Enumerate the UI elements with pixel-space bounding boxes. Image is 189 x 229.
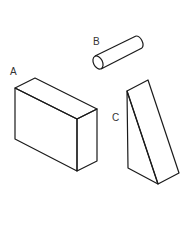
label-c: C	[112, 112, 119, 123]
label-b: B	[93, 36, 100, 47]
shape-a-rectangular-prism	[15, 78, 97, 171]
solids-diagram: A B C	[0, 0, 189, 229]
label-a: A	[10, 66, 17, 77]
shape-c-triangular-prism	[127, 80, 179, 184]
